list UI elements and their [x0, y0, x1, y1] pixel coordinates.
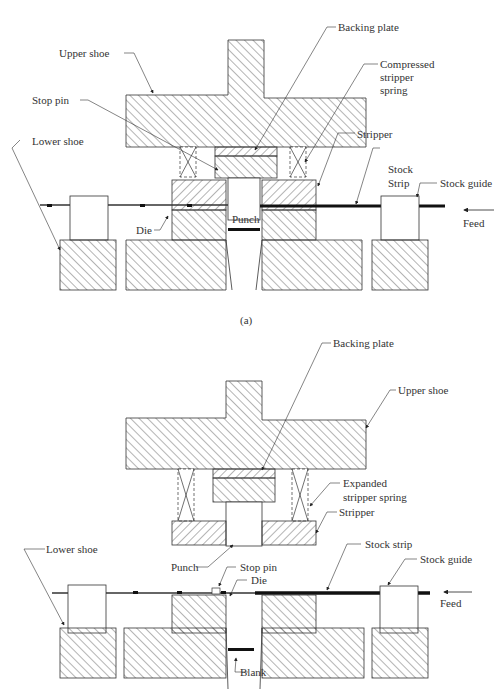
label-upper-shoe-b: Upper shoe: [398, 384, 448, 396]
label-lower-shoe-a: Lower shoe: [32, 135, 84, 147]
label-die-b: Die: [251, 574, 267, 586]
label-compressed-spring-1: Compressed: [380, 58, 434, 70]
stock-guide-b-right: [380, 586, 418, 633]
stock-guide-a-right: [381, 196, 419, 240]
lower-shoe-b-right: [262, 628, 364, 678]
label-stock-a-2: Strip: [388, 177, 409, 189]
label-stripper-a: Stripper: [357, 128, 392, 140]
lower-shoe-b-mid: [124, 628, 226, 678]
expanded-spring-left-icon: [178, 469, 194, 521]
label-compressed-spring-2: stripper: [380, 71, 414, 83]
label-feed-b: Feed: [440, 597, 461, 609]
label-expanded-spring-1: Expanded: [343, 477, 387, 489]
upper-shoe-b: [126, 381, 366, 469]
expanded-spring-right-icon: [292, 469, 308, 521]
compressed-spring-left-icon: [180, 147, 196, 177]
punch-holder-a: [215, 156, 277, 178]
blank-b: [228, 648, 254, 651]
punch-holder-b: [213, 478, 275, 502]
label-blank-b: Blank: [240, 666, 266, 678]
stop-pin-b: [212, 588, 220, 594]
label-expanded-spring-2: stripper spring: [343, 491, 407, 503]
die-b-right: [262, 595, 316, 633]
lower-shoe-a-far: [372, 240, 428, 290]
label-die-a: Die: [136, 224, 152, 236]
label-stop-pin-a: Stop pin: [32, 94, 69, 106]
upper-shoe-a: [126, 40, 366, 147]
die-b-left: [172, 595, 226, 633]
label-feed-a: Feed: [463, 217, 484, 229]
compressed-spring-right-icon: [290, 147, 306, 177]
label-stock-guide-a: Stock guide: [440, 177, 492, 189]
lower-shoe-b-far: [372, 628, 428, 678]
die-a-right: [262, 210, 316, 240]
label-stock-guide-b: Stock guide: [420, 553, 472, 565]
label-backing-plate-a: Backing plate: [338, 21, 399, 33]
lower-shoe-b-left: [60, 628, 116, 678]
label-compressed-spring-3: spring: [380, 84, 408, 96]
label-stripper-b: Stripper: [339, 506, 374, 518]
lower-shoe-a-right: [262, 240, 362, 290]
label-punch-b: Punch: [171, 561, 199, 573]
caption-panel-a: (a): [240, 314, 252, 326]
backing-plate-b: [213, 469, 275, 478]
label-punch-a: Punch: [232, 213, 260, 225]
stock-guide-a-left: [70, 196, 108, 240]
stripper-b-right: [262, 521, 316, 545]
stock-guide-b-left: [68, 585, 106, 633]
label-lower-shoe-b: Lower shoe: [46, 543, 98, 555]
stripper-b-left: [172, 521, 226, 545]
label-stock-a-1: Stock: [388, 163, 413, 175]
backing-plate-a: [215, 147, 277, 156]
label-stock-strip-b: Stock strip: [365, 538, 412, 550]
lower-shoe-a-mid: [126, 240, 226, 290]
label-stop-pin-b: Stop pin: [240, 561, 277, 573]
lower-shoe-a-left: [60, 240, 116, 290]
punch-b: [226, 502, 262, 546]
die-a-left: [172, 210, 226, 240]
label-backing-plate-b: Backing plate: [333, 337, 394, 349]
label-upper-shoe-a: Upper shoe: [59, 47, 109, 59]
